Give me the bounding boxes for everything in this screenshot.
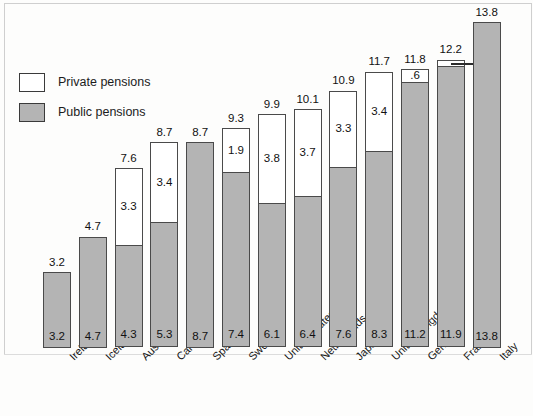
bar-segment-public-value: 5.3 [151,329,177,341]
bar-group: 9.93.86.1 [258,114,286,348]
bar-segment-private-value: 3.3 [116,202,142,214]
bar-segment-private: 3.4 [365,72,393,152]
bar-segment-public-value: 11.9 [438,329,464,341]
bar-segment-public-value: 4.3 [116,329,142,341]
bar-segment-private-value: 3.4 [366,106,392,118]
bar-segment-private: 1.9 [222,128,250,173]
bar-group: 4.74.7 [79,237,107,348]
bar-segment-public-value: 11.2 [402,329,428,341]
bar-segment-public-value: 8.7 [187,331,213,343]
bar-segment-public-value: 6.1 [259,329,285,341]
bar-segment-public: 8.3 [365,151,393,347]
bar-total-label: 13.8 [466,7,508,19]
bar-segment-private-value: 3.3 [330,124,356,136]
bar-segment-private-value: 3.4 [151,177,177,189]
bar-total-label: 7.6 [108,153,150,165]
bar-group: 9.31.97.4 [222,128,250,348]
bar-group: 12.211.9 [437,60,465,348]
bar-group: 11.73.48.3 [365,72,393,348]
bar-segment-private-value: 1.9 [223,145,249,157]
bar-segment-public: 11.9 [437,66,465,347]
bar-segment-public: 13.8 [473,22,501,348]
bar-segment-public: 11.2 [401,82,429,347]
bar-group: 3.23.2 [43,272,71,348]
bar-segment-public-value: 7.6 [330,329,356,341]
bar-segment-public: 7.6 [329,167,357,347]
bar-segment-private: 3.7 [294,109,322,196]
bar-total-label: 12.2 [430,44,472,56]
plot-area: 3.23.2Ireland4.74.7Iceland7.63.34.3Austr… [0,0,533,416]
bar-total-label: 8.7 [179,127,221,139]
bar-total-label: 9.3 [215,113,257,125]
bar-segment-private: 3.3 [329,91,357,169]
bar-segment-public-value: 4.7 [80,331,106,343]
bar-segment-public: 5.3 [150,222,178,347]
bar-segment-public: 7.4 [222,172,250,347]
bar-segment-private-value: 3.8 [259,153,285,165]
bar-total-label: 10.1 [287,94,329,106]
bar-segment-public-value: 3.2 [44,331,70,343]
pension-spending-chart: Private pensions Public pensions 3.23.2I… [0,0,533,416]
bar-segment-public-value: 13.8 [474,331,500,343]
bar-segment-private: 3.4 [150,142,178,222]
bar-group: 7.63.34.3 [115,168,143,348]
bar-segment-public-value: 6.4 [295,329,321,341]
bar-segment-private-value: 3.7 [295,147,321,159]
bar-segment-public: 6.1 [258,203,286,347]
bar-group: 10.93.37.6 [329,91,357,348]
bar-segment-public: 3.2 [43,272,71,348]
bar-segment-public-value: 8.3 [366,329,392,341]
bar-segment-public: 6.4 [294,196,322,347]
bar-segment-private: 3.8 [258,114,286,204]
bar-segment-public: 4.3 [115,245,143,347]
bar-segment-private: 3.3 [115,168,143,246]
bar-segment-public-value: 7.4 [223,329,249,341]
bar-total-label: 10.9 [322,75,364,87]
bar-group: 11.8.611.2 [401,69,429,348]
bar-total-label: 3.2 [36,257,78,269]
bar-total-label: 4.7 [72,221,114,233]
bar-segment-public: 4.7 [79,237,107,348]
bar-segment-public: 8.7 [186,142,214,348]
bar-segment-private-value: .6 [402,71,428,83]
bar-group: 8.73.45.3 [150,142,178,348]
bar-group: 13.813.8 [473,22,501,348]
bar-group: 8.78.7 [186,142,214,348]
bar-group: 10.13.76.4 [294,109,322,348]
